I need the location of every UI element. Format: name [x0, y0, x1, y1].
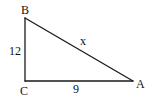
vertex-label-c: C [20, 84, 28, 98]
side-ba-hypotenuse [25, 18, 133, 81]
vertex-label-a: A [136, 77, 145, 91]
vertex-label-b: B [21, 3, 29, 17]
triangle-diagram: B C A 12 9 x [0, 0, 150, 103]
side-label-ba: x [80, 34, 86, 48]
side-label-bc: 12 [9, 44, 21, 58]
side-label-ca: 9 [73, 82, 79, 96]
